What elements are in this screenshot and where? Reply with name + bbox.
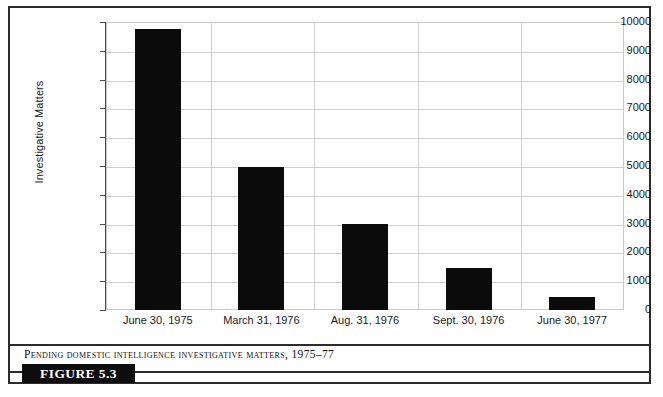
y-axis-tick (100, 108, 105, 109)
y-axis-tick (100, 137, 105, 138)
bar (135, 29, 181, 310)
bar (342, 224, 388, 310)
bar (549, 297, 595, 310)
x-axis-tick-label: Aug. 31, 1976 (313, 314, 417, 326)
y-axis-tick (100, 281, 105, 282)
x-axis-tick-label: June 30, 1975 (106, 314, 210, 326)
y-axis-tick (100, 51, 105, 52)
x-axis-tick-label: Sept. 30, 1976 (417, 314, 521, 326)
y-axis-title: Investigative Matters (33, 57, 45, 207)
figure-number-badge: FIGURE 5.3 (22, 364, 135, 383)
y-axis-tick (100, 195, 105, 196)
y-axis-label-wrap: Investigative Matters (10, 8, 98, 338)
bar (446, 268, 492, 310)
x-axis-tick-labels: June 30, 1975March 31, 1976Aug. 31, 1976… (106, 314, 624, 334)
x-axis-tick-label: March 31, 1976 (210, 314, 314, 326)
caption-divider-rule (8, 344, 651, 346)
bar-series (106, 22, 624, 310)
figure-root: Investigative Matters 010002000300040005… (0, 0, 663, 397)
figure-caption: Pending Domestic Intelligence Investigat… (24, 348, 334, 360)
x-axis-tick-label: June 30, 1977 (520, 314, 624, 326)
y-axis-tick (100, 22, 105, 23)
y-axis-tick (100, 80, 105, 81)
chart-region: Investigative Matters 010002000300040005… (10, 8, 651, 338)
y-axis-tick (100, 310, 105, 311)
bar (238, 167, 284, 310)
y-axis-tick (100, 224, 105, 225)
y-axis-tick (100, 252, 105, 253)
y-axis-tick (100, 166, 105, 167)
